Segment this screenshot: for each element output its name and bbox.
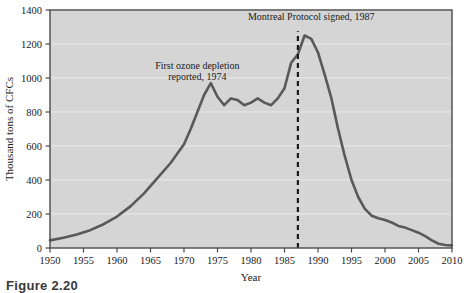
svg-text:First ozone depletion: First ozone depletion	[155, 60, 239, 71]
x-tick-label: 1960	[107, 255, 128, 266]
x-tick-label: 2005	[408, 255, 429, 266]
svg-text:reported, 1974: reported, 1974	[168, 71, 226, 82]
y-tick-label: 1000	[21, 73, 42, 84]
y-tick-label: 400	[26, 175, 42, 186]
y-tick-label: 200	[26, 209, 42, 220]
x-tick-label: 1990	[308, 255, 329, 266]
y-tick-label: 600	[26, 141, 42, 152]
x-tick-label: 1980	[241, 255, 262, 266]
y-tick-label: 0	[37, 243, 42, 254]
annotation-montreal-protocol: Montreal Protocol signed, 1987	[248, 11, 375, 22]
x-tick-label: 1950	[40, 255, 61, 266]
x-tick-label: 1985	[274, 255, 295, 266]
x-tick-label: 1965	[140, 255, 161, 266]
x-axis-title: Year	[241, 271, 262, 283]
svg-text:Montreal Protocol signed, 1987: Montreal Protocol signed, 1987	[248, 11, 375, 22]
x-tick-label: 1955	[73, 255, 94, 266]
plot-area	[50, 10, 452, 248]
x-tick-label: 2000	[375, 255, 396, 266]
x-tick-label: 1995	[341, 255, 362, 266]
figure-caption: Figure 2.20	[6, 279, 78, 293]
x-tick-label: 1970	[174, 255, 195, 266]
x-tick-label: 2010	[442, 255, 463, 266]
y-axis-title: Thousand tons of CFCs	[3, 77, 15, 181]
cfc-production-chart: 1950195519601965197019751980198519901995…	[0, 0, 472, 293]
y-tick-label: 800	[26, 107, 42, 118]
x-tick-label: 1975	[207, 255, 228, 266]
y-tick-label: 1400	[21, 5, 42, 16]
y-tick-label: 1200	[21, 39, 42, 50]
